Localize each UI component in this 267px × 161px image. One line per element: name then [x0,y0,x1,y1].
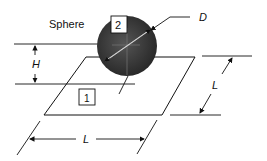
d-leader-arrow [151,17,170,30]
l-right-arrow-down [200,94,211,113]
diameter-label: D [199,11,207,23]
surface-1-label: 1 [84,93,90,104]
l-bottom-right-extension [137,120,157,154]
l-bottom-left-extension [17,121,40,155]
side-bottom-label: L [83,133,89,145]
sphere-plate-diagram: Sphere 2 1 D H L L [0,0,267,161]
sphere-stem [119,76,128,94]
sphere-label: Sphere [49,18,84,30]
height-label: H [32,58,40,70]
side-right-label: L [212,79,218,91]
surface-2-label: 2 [115,19,121,31]
l-right-arrow-up [222,58,232,74]
